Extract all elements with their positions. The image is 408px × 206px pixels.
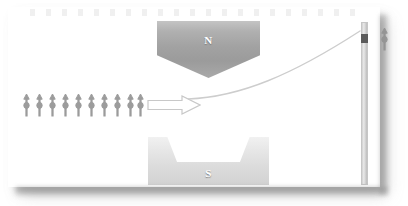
spin-up-arrow-icon: [136, 93, 145, 117]
spin-up-arrow-icon: [87, 93, 96, 117]
magnet-south-label: S: [148, 167, 269, 179]
spin-up-arrow-icon: [22, 93, 31, 117]
spin-up-arrow-icon: [113, 93, 122, 117]
magnet-north-pole: N: [157, 21, 260, 78]
detector-screen: [361, 22, 368, 185]
magnet-north-body: [157, 21, 260, 78]
spin-up-arrow-icon: [126, 93, 135, 117]
spin-up-arrow-icon: [48, 93, 57, 117]
spin-up-arrow-icon: [35, 93, 44, 117]
stern-gerlach-figure: N S: [0, 0, 408, 206]
top-edge-texture: [30, 9, 366, 16]
panel-bottom-shadow: [16, 187, 388, 197]
spin-up-arrow-icon: [74, 93, 83, 117]
magnet-south-pole: S: [148, 137, 269, 185]
source-spin-row: [22, 93, 142, 117]
magnet-north-label: N: [157, 34, 260, 46]
figure-panel: N S: [8, 7, 380, 187]
spin-up-arrow-icon: [100, 93, 109, 117]
beam-direction-arrow: [147, 95, 201, 115]
spin-up-arrow-icon: [61, 93, 70, 117]
detector-impact-spot: [361, 34, 368, 43]
spin-up-arrow-icon: [380, 27, 389, 51]
